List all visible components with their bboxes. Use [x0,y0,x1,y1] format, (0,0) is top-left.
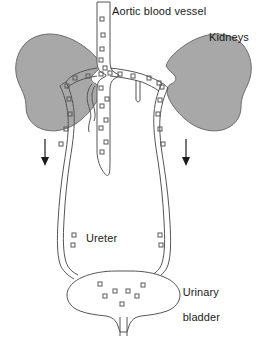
label-aortic-blood-vessel: Aortic blood vessel [112,5,206,18]
kidney-right [166,34,251,131]
kidney-left [16,34,101,131]
flow-arrow-left [41,139,49,166]
label-ureter: Ureter [86,232,117,245]
anatomy-illustration [0,0,268,339]
label-urinary-bladder: Urinary bladder [170,273,220,336]
label-urinary-bladder-line1: Urinary [183,286,219,298]
label-kidneys: Kidneys [209,31,249,44]
label-urinary-bladder-line2: bladder [183,311,220,323]
urinary-system-diagram: Aortic blood vessel Kidneys Ureter Urina… [0,0,268,339]
flow-arrow-right [182,139,190,166]
